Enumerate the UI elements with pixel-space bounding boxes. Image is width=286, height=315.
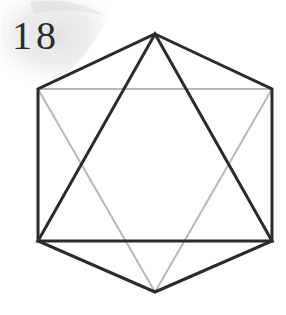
hexagon-outline: [38, 34, 272, 292]
figure-container: 18: [0, 0, 286, 315]
light-triangle: [38, 89, 272, 292]
figure-number-label: 18: [12, 14, 60, 58]
